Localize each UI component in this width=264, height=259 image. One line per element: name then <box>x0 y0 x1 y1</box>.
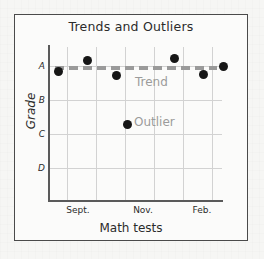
data-point <box>170 54 179 63</box>
gridline-horizontal-c <box>49 134 222 135</box>
trend-annotation-label: Trend <box>135 75 168 89</box>
y-axis-line <box>48 45 50 202</box>
chart-title: Trends and Outliers <box>14 19 248 34</box>
x-axis-title: Math tests <box>14 221 248 235</box>
gridline-horizontal-b <box>49 100 222 101</box>
data-point <box>199 70 208 79</box>
x-tick-label-nov: Nov. <box>133 205 153 215</box>
trend-line <box>55 66 217 70</box>
x-tick-label-feb: Feb. <box>193 205 212 215</box>
outlier-annotation-label: Outlier <box>134 115 175 129</box>
data-point <box>83 56 92 65</box>
data-point <box>54 67 63 76</box>
y-axis-title: Grade <box>24 76 38 146</box>
data-point <box>219 62 228 71</box>
data-point <box>112 71 121 80</box>
gridline-horizontal-d <box>49 168 222 169</box>
outlier-data-point <box>123 120 132 129</box>
y-tick-label-a: A <box>29 61 45 71</box>
y-tick-label-d: D <box>29 163 45 173</box>
x-axis-line <box>48 200 223 202</box>
x-tick-label-sept: Sept. <box>66 205 89 215</box>
plot-area: Trend Outlier <box>49 47 222 200</box>
